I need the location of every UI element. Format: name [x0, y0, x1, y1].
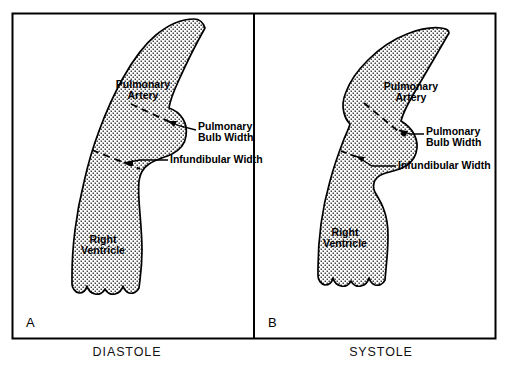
figure-root: Pulmonary Artery Pulmonary Bulb Width In…	[0, 0, 508, 370]
label-right-ventricle-b-line2: Ventricle	[323, 237, 367, 249]
label-infundibular-width-b: Infundibular Width	[398, 159, 491, 171]
label-pulmonary-artery-a-line2: Artery	[128, 89, 159, 101]
label-pulmonary-bulb-width-b-line2: Bulb Width	[426, 136, 481, 148]
panel-letter-b: B	[268, 315, 277, 330]
caption-diastole: DIASTOLE	[0, 345, 254, 359]
caption-systole: SYSTOLE	[254, 345, 508, 359]
panel-letter-a: A	[26, 315, 35, 330]
label-pulmonary-bulb-width-a-line2: Bulb Width	[198, 131, 253, 143]
label-pulmonary-artery-b-line2: Artery	[396, 91, 427, 103]
label-right-ventricle-a-line2: Ventricle	[81, 244, 125, 256]
label-infundibular-width-a: Infundibular Width	[170, 153, 263, 165]
label-pulmonary-bulb-width-b: Pulmonary Bulb Width	[426, 125, 481, 148]
label-pulmonary-bulb-width-a: Pulmonary Bulb Width	[198, 120, 253, 143]
